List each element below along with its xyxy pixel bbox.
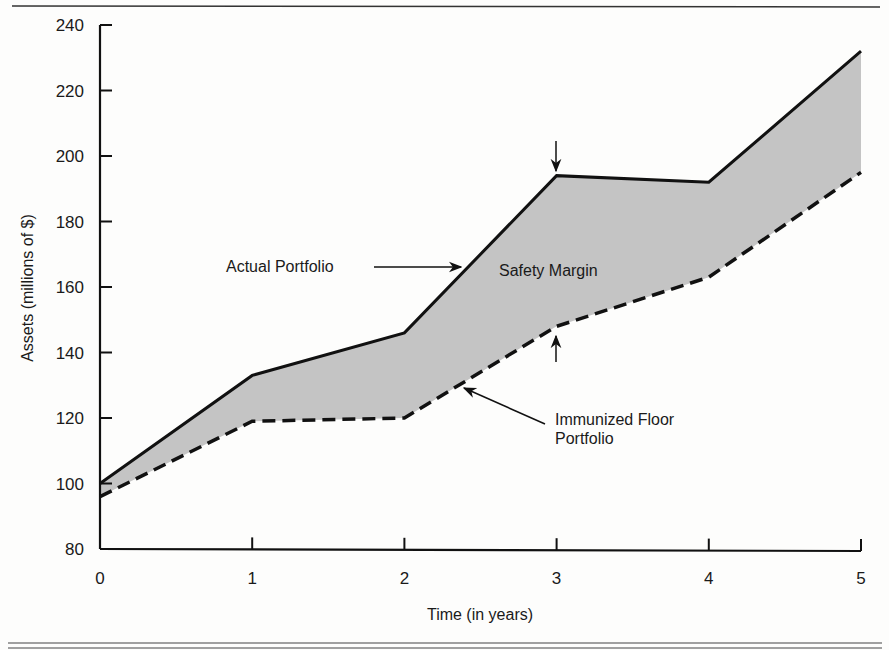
actual-portfolio-label: Actual Portfolio (226, 258, 334, 275)
x-axis-title: Time (in years) (427, 606, 533, 623)
plot-area: 80100120140160180200220240012345 (56, 16, 866, 588)
y-tick-label: 200 (56, 147, 84, 166)
immunized-floor-arrow (464, 388, 545, 424)
x-tick-label: 4 (704, 569, 713, 588)
y-tick-label: 220 (56, 82, 84, 101)
y-tick-label: 160 (56, 278, 84, 297)
y-tick-label: 180 (56, 213, 84, 232)
y-tick-label: 80 (65, 540, 84, 559)
x-tick-label: 5 (856, 569, 865, 588)
y-tick-label: 140 (56, 344, 84, 363)
y-axis-title: Assets (millions of $) (19, 214, 36, 362)
immunized-floor-label-line1: Immunized Floor (555, 411, 675, 428)
y-tick-label: 100 (56, 475, 84, 494)
x-tick-label: 1 (247, 569, 256, 588)
safety-margin-label: Safety Margin (499, 262, 598, 279)
y-tick-label: 240 (56, 16, 84, 35)
y-tick-label: 120 (56, 409, 84, 428)
immunized-floor-label-line2: Portfolio (555, 430, 614, 447)
safety-margin-area (100, 51, 861, 496)
x-tick-label: 0 (95, 569, 104, 588)
x-tick-label: 3 (552, 569, 561, 588)
x-tick-label: 2 (400, 569, 409, 588)
chart: 80100120140160180200220240012345 Time (i… (0, 0, 889, 650)
x-axis (100, 549, 861, 551)
top-rule (12, 6, 880, 7)
